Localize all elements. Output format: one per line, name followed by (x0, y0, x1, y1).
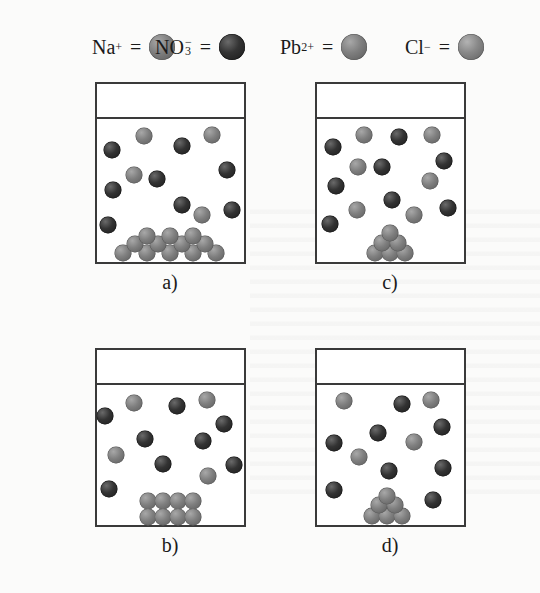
nitrate-ion-icon (325, 139, 342, 156)
nitrate-ion-icon (195, 433, 212, 450)
cation-ion-icon (406, 207, 423, 224)
precipitate-particle-icon (185, 509, 202, 526)
beaker-label-a: a) (150, 271, 190, 294)
legend-equals: = (200, 36, 211, 59)
nitrate-ion-icon (326, 482, 343, 499)
precipitate-particle-icon (162, 228, 179, 245)
nitrate-ion-icon (434, 419, 451, 436)
legend-symbol: Na (92, 36, 115, 59)
legend-symbol: Cl (405, 36, 424, 59)
nitrate-ion-icon (174, 197, 191, 214)
legend-equals: = (322, 36, 333, 59)
nitrate-ion-icon (436, 153, 453, 170)
precipitate-particle-icon (185, 228, 202, 245)
nitrate-ion-icon (370, 425, 387, 442)
precipitate-particle-icon (382, 225, 399, 242)
nitrate-ion-icon (219, 162, 236, 179)
nitrate-ion-icon (149, 171, 166, 188)
liquid-surface-line (97, 383, 244, 385)
legend-charge: + (115, 40, 122, 55)
nitrate-ion-icon (435, 460, 452, 477)
cation-ion-icon (200, 468, 217, 485)
legend-symbol: NO (155, 36, 184, 59)
cation-ion-icon (349, 202, 366, 219)
nitrate-ion-icon (155, 456, 172, 473)
legend-charge: 2+ (301, 40, 314, 55)
nitrate-sphere-icon (219, 34, 245, 60)
nitrate-ion-icon (105, 182, 122, 199)
beaker-label-d: d) (370, 534, 410, 557)
nitrate-ion-icon (137, 431, 154, 448)
nitrate-ion-icon (104, 142, 121, 159)
nitrate-ion-icon (174, 138, 191, 155)
nitrate-ion-icon (384, 192, 401, 209)
beaker-label-b: b) (150, 534, 190, 557)
cation-ion-icon (336, 393, 353, 410)
precipitate-particle-icon (139, 228, 156, 245)
liquid-surface-line (317, 117, 464, 119)
legend-equals: = (439, 36, 450, 59)
nitrate-ion-icon (216, 416, 233, 433)
legend-charge: − (424, 40, 431, 55)
legend-item-lead: Pb2+ = (280, 32, 367, 62)
cation-ion-icon (126, 167, 143, 184)
nitrate-ion-icon (425, 492, 442, 509)
liquid-surface-line (317, 383, 464, 385)
cation-ion-icon (108, 447, 125, 464)
beaker-label-c: c) (370, 271, 410, 294)
nitrate-ion-icon (100, 217, 117, 234)
cation-ion-icon (406, 434, 423, 451)
legend-equals: = (130, 36, 141, 59)
legend-subscript: 3 (185, 47, 192, 56)
cation-ion-icon (422, 173, 439, 190)
ion-legend: Na+ = NO−3 = Pb2+ = Cl− = (0, 32, 540, 62)
nitrate-ion-icon (326, 435, 343, 452)
nitrate-ion-icon (374, 159, 391, 176)
liquid-surface-line (97, 117, 244, 119)
nitrate-ion-icon (322, 216, 339, 233)
nitrate-ion-icon (391, 129, 408, 146)
nitrate-ion-icon (224, 202, 241, 219)
chloride-sphere-icon (458, 34, 484, 60)
cation-ion-icon (356, 127, 373, 144)
cation-ion-icon (194, 207, 211, 224)
nitrate-ion-icon (101, 481, 118, 498)
cation-ion-icon (350, 159, 367, 176)
legend-item-chloride: Cl− = (405, 32, 484, 62)
cation-ion-icon (351, 449, 368, 466)
legend-symbol: Pb (280, 36, 301, 59)
lead-sphere-icon (341, 34, 367, 60)
cation-ion-icon (423, 392, 440, 409)
nitrate-ion-icon (226, 457, 243, 474)
cation-ion-icon (126, 395, 143, 412)
precipitate-particle-icon (379, 488, 396, 505)
nitrate-ion-icon (328, 178, 345, 195)
nitrate-ion-icon (169, 398, 186, 415)
nitrate-ion-icon (381, 463, 398, 480)
cation-ion-icon (136, 128, 153, 145)
cation-ion-icon (424, 127, 441, 144)
cation-ion-icon (199, 392, 216, 409)
nitrate-ion-icon (440, 200, 457, 217)
nitrate-ion-icon (97, 408, 114, 425)
nitrate-ion-icon (394, 396, 411, 413)
legend-item-nitrate: NO−3 = (155, 32, 245, 62)
cation-ion-icon (204, 127, 221, 144)
precipitate-particle-icon (185, 493, 202, 510)
